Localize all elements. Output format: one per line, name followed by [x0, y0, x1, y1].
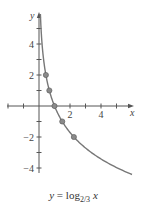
- data-point: [52, 103, 57, 108]
- caption-x: x: [93, 189, 98, 201]
- x-tick-label: 2: [68, 109, 73, 120]
- y-tick-label: −4: [23, 163, 34, 174]
- y-tick-label: 4: [29, 39, 34, 50]
- log-graph: 2442−2−4 x y: [0, 0, 147, 185]
- caption-equals: =: [57, 189, 63, 201]
- y-axis-label: y: [29, 10, 35, 21]
- y-tick-label: 2: [29, 70, 34, 81]
- data-point: [71, 134, 76, 139]
- caption-log: log: [66, 189, 80, 201]
- x-tick-label: 4: [99, 109, 104, 120]
- axes: 2442−2−4 x y: [7, 10, 135, 174]
- data-point: [43, 72, 48, 77]
- log-curve: [40, 14, 132, 175]
- chart-caption: y = log2/3 x: [0, 189, 147, 204]
- caption-y: y: [49, 189, 54, 201]
- data-point: [47, 88, 52, 93]
- x-axis-label: x: [129, 107, 135, 118]
- y-tick-label: −2: [23, 132, 34, 143]
- data-point: [60, 119, 65, 124]
- caption-base: 2/3: [80, 195, 90, 204]
- ticks: [8, 29, 117, 169]
